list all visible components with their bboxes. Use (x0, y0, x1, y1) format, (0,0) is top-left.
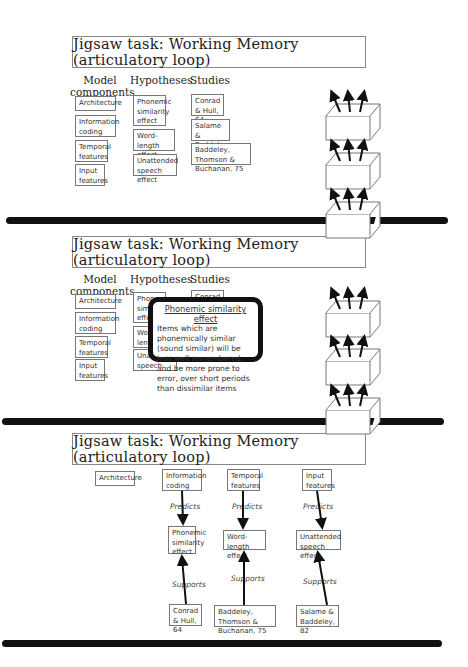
crate-predicts-icon (326, 104, 380, 140)
crate-supports-icon (326, 349, 380, 385)
crate-supports-icon (326, 153, 380, 189)
crate-refutes-icon (326, 202, 380, 238)
crate-refutes-icon (326, 398, 380, 434)
diagram-graphics (0, 0, 468, 667)
link-arrows (182, 491, 327, 605)
crate-predicts-icon (326, 301, 380, 337)
